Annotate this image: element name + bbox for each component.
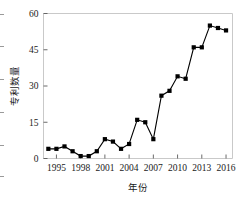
x-tick-label: 2013 xyxy=(192,163,211,173)
data-point-marker xyxy=(79,154,83,158)
data-point-marker xyxy=(192,45,196,49)
x-axis-label: 年份 xyxy=(128,182,148,193)
x-tick-label: 2004 xyxy=(120,163,139,173)
data-point-marker xyxy=(143,120,147,124)
data-point-marker xyxy=(87,154,91,158)
x-tick-label: 1995 xyxy=(47,163,66,173)
data-point-marker xyxy=(119,147,123,151)
y-axis: 015304560 xyxy=(29,9,48,164)
y-tick-label: 0 xyxy=(34,154,39,164)
data-point-marker xyxy=(208,23,212,27)
y-tick-label: 45 xyxy=(29,45,39,55)
data-point-marker xyxy=(46,147,50,151)
page-edge-mark xyxy=(0,112,4,113)
data-point-marker xyxy=(224,28,228,32)
data-point-marker xyxy=(184,77,188,81)
data-point-marker xyxy=(135,118,139,122)
x-tick-label: 2010 xyxy=(168,163,187,173)
data-point-marker xyxy=(103,137,107,141)
page-edge-mark xyxy=(0,14,4,15)
data-point-marker xyxy=(200,45,204,49)
series-markers xyxy=(46,23,228,158)
x-tick-label: 2001 xyxy=(95,163,114,173)
data-point-marker xyxy=(111,139,115,143)
x-tick-label: 2016 xyxy=(217,163,236,173)
page-edge-mark xyxy=(0,145,4,146)
data-point-marker xyxy=(151,137,155,141)
data-point-marker xyxy=(62,144,66,148)
x-axis: 19951998200120042007201020132016 xyxy=(47,155,236,173)
data-point-marker xyxy=(127,142,131,146)
data-point-marker xyxy=(175,74,179,78)
page-edge-mark xyxy=(0,46,4,47)
data-point-marker xyxy=(54,147,58,151)
data-point-marker xyxy=(167,89,171,93)
y-tick-label: 30 xyxy=(29,81,39,91)
page-edge-mark xyxy=(0,79,4,80)
data-point-marker xyxy=(70,149,74,153)
y-axis-label: 专利数量 xyxy=(9,66,20,106)
chart-figure: 015304560 199519982001200420072010201320… xyxy=(0,0,250,199)
data-point-marker xyxy=(159,94,163,98)
line-chart-plot: 015304560 199519982001200420072010201320… xyxy=(0,0,250,199)
data-point-marker xyxy=(216,26,220,30)
y-tick-label: 60 xyxy=(29,9,39,19)
data-point-marker xyxy=(95,149,99,153)
x-tick-label: 1998 xyxy=(71,163,90,173)
page-edge-mark xyxy=(0,176,4,177)
x-tick-label: 2007 xyxy=(144,163,163,173)
y-tick-label: 15 xyxy=(29,118,39,128)
series-line-patent-count xyxy=(48,26,226,157)
plot-frame xyxy=(44,14,233,159)
